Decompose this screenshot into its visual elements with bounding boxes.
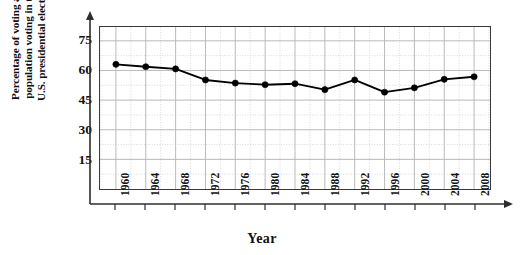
x-axis-tick-label: 1960 — [120, 150, 132, 196]
x-axis-tick-label: 1988 — [330, 150, 342, 196]
x-axis-tick-label: 2008 — [480, 150, 492, 196]
x-axis-tick-label: 1980 — [270, 150, 282, 196]
x-axis-tick-label: 2004 — [450, 150, 462, 196]
x-axis-tick-labels: 1960196419681972197619801984198819921996… — [0, 0, 524, 255]
x-axis-tick-label: 1996 — [390, 150, 402, 196]
x-axis-tick-label: 2000 — [420, 150, 432, 196]
x-axis-tick-label: 1976 — [240, 150, 252, 196]
x-axis-tick-label: 1968 — [180, 150, 192, 196]
x-axis-tick-label: 1984 — [300, 150, 312, 196]
x-axis-title: Year — [0, 231, 524, 247]
x-axis-tick-label: 1992 — [360, 150, 372, 196]
x-axis-tick-label: 1964 — [150, 150, 162, 196]
x-axis-tick-label: 1972 — [210, 150, 222, 196]
chart-figure: Percentage of voting age population voti… — [0, 0, 524, 255]
